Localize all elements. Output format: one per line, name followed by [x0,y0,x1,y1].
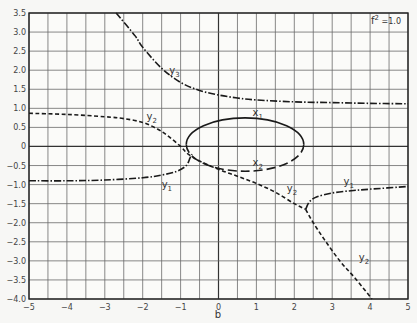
y-tick-label: 2.0 [13,66,26,75]
y-tick-label: −1.0 [7,181,26,190]
y-tick-label: 1.0 [13,104,26,113]
x-axis-label: b [215,309,221,320]
x-tick-label: −5 [23,303,35,312]
grid [29,13,408,299]
x-tick-label: 4 [368,303,373,312]
y-tick-label: 2.5 [13,47,26,56]
chart-canvas: −5−4−3−2−10123453.53.02.52.01.51.00.50−0… [0,0,417,323]
x-tick-label: 5 [405,303,410,312]
x-tick-label: 3 [330,303,335,312]
y-tick-label: −2.5 [7,238,26,247]
y-tick-label: 0 [21,142,26,151]
y-tick-label: 0.5 [13,123,26,132]
x-tick-label: −2 [137,303,149,312]
y-tick-label: −0.5 [7,162,26,171]
x-tick-label: 2 [292,303,297,312]
x-tick-label: −3 [99,303,111,312]
y-tick-label: −1.5 [7,200,26,209]
x-tick-label: −4 [61,303,73,312]
y-tick-label: −2.0 [7,219,26,228]
x-tick-label: −1 [175,303,187,312]
y-tick-label: 3.5 [13,9,26,18]
chart-figure: −5−4−3−2−10123453.53.02.52.01.51.00.50−0… [0,0,417,323]
x-tick-label: 1 [254,303,259,312]
y-tick-label: 3.0 [13,28,26,37]
y-tick-label: −3.0 [7,257,26,266]
y-tick-label: 1.5 [13,85,26,94]
y-tick-label: −4.0 [7,295,26,304]
y-tick-label: −3.5 [7,276,26,285]
